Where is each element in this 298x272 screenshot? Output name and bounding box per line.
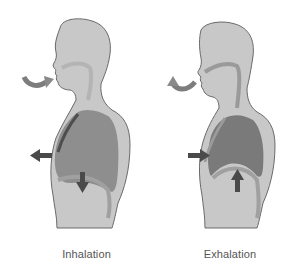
ribcage-arrow-shaft	[38, 153, 52, 158]
inhalation-figure	[0, 0, 149, 245]
inhalation-caption: Inhalation	[12, 248, 161, 260]
inhalation-panel: Inhalation	[0, 0, 149, 272]
air-out-arrowhead	[167, 76, 179, 86]
diaphragm-arrow-shaft	[235, 178, 240, 192]
exhalation-figure	[149, 0, 298, 245]
air-in-arrowhead	[44, 76, 54, 88]
ribcage-arrow-shaft	[188, 153, 202, 158]
exhalation-panel: Exhalation	[149, 0, 298, 272]
ribcage-arrowhead	[30, 149, 40, 162]
exhalation-caption: Exhalation	[170, 248, 290, 260]
air-in-arrow	[24, 77, 46, 85]
